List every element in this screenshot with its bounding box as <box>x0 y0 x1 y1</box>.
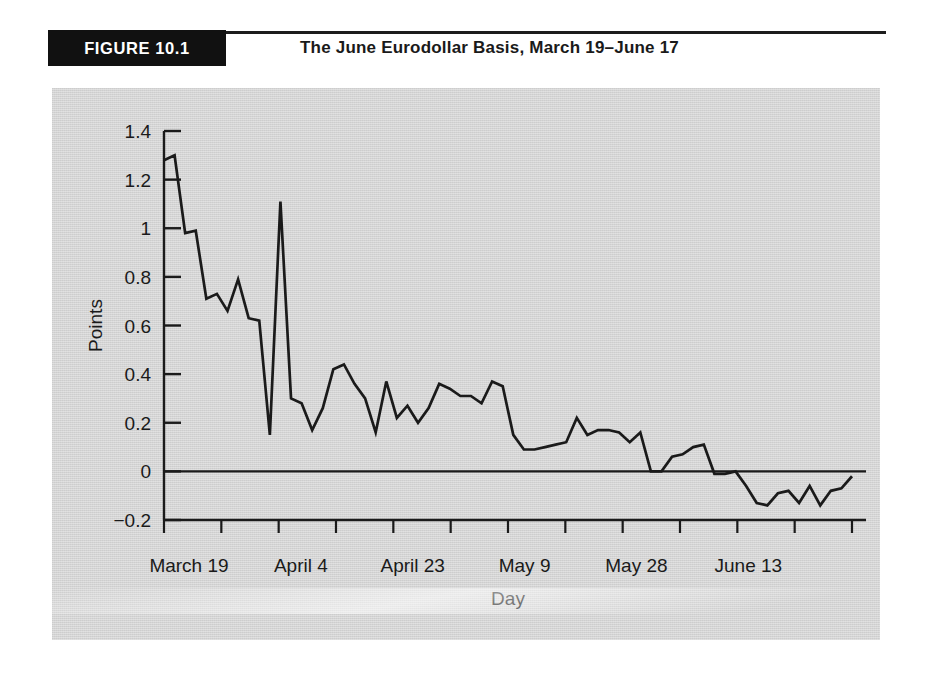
y-tick-label: 0.6 <box>125 316 151 337</box>
figure-header: FIGURE 10.1 The June Eurodollar Basis, M… <box>48 30 838 70</box>
y-tick-label: 1.2 <box>125 170 151 191</box>
data-series <box>164 155 852 505</box>
y-axis: −0.200.20.40.60.811.21.4 <box>113 121 181 531</box>
y-tick-label: 0 <box>140 461 151 482</box>
x-tick-label: March 19 <box>149 555 228 576</box>
line-chart: −0.200.20.40.60.811.21.4 March 19April 4… <box>52 88 880 640</box>
x-tick-label: June 13 <box>715 555 783 576</box>
x-axis: March 19April 4April 23May 9May 28June 1… <box>149 520 866 576</box>
y-tick-label: 0.8 <box>125 267 151 288</box>
figure-root: FIGURE 10.1 The June Eurodollar Basis, M… <box>0 0 930 680</box>
y-tick-label: 0.2 <box>125 413 151 434</box>
y-tick-label: −0.2 <box>113 510 151 531</box>
x-tick-label: May 9 <box>499 555 551 576</box>
x-tick-label: May 28 <box>605 555 667 576</box>
x-tick-label: April 23 <box>381 555 445 576</box>
figure-number-banner: FIGURE 10.1 <box>48 30 226 66</box>
figure-title: The June Eurodollar Basis, March 19–June… <box>300 30 679 66</box>
x-axis-title: Day <box>491 588 525 609</box>
y-tick-label: 0.4 <box>125 364 152 385</box>
y-axis-title: Points <box>85 299 106 352</box>
y-tick-label: 1.4 <box>125 121 152 142</box>
chart-panel: −0.200.20.40.60.811.21.4 March 19April 4… <box>52 88 880 640</box>
y-tick-label: 1 <box>140 218 151 239</box>
x-tick-label: April 4 <box>274 555 328 576</box>
